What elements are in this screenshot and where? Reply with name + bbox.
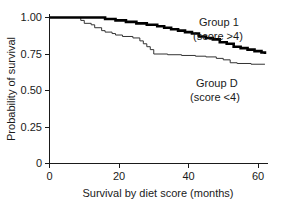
y-tick-label-1.00: 1.00 bbox=[21, 11, 42, 23]
kaplan-meier-plot: 1.00 0.75 0.50 0.25 0 0 20 40 60 Probabi… bbox=[0, 0, 281, 204]
y-tick-label-0: 0 bbox=[36, 157, 42, 169]
legend-group-d: Group D (score <4) bbox=[190, 77, 240, 103]
y-axis-title: Probability of survival bbox=[5, 37, 17, 141]
y-tick-label-0.50: 0.50 bbox=[21, 84, 42, 96]
legend-note-group-d: (score <4) bbox=[190, 91, 240, 103]
x-tick-label-0: 0 bbox=[46, 170, 52, 182]
x-tick-label-60: 60 bbox=[252, 170, 264, 182]
legend-note-group-1: (score >4) bbox=[193, 30, 243, 42]
y-tick-label-0.75: 0.75 bbox=[21, 48, 42, 60]
x-tick-labels: 0 20 40 60 bbox=[46, 170, 264, 182]
legend-label-group-d: Group D bbox=[196, 77, 238, 89]
y-tick-labels: 1.00 0.75 0.50 0.25 0 bbox=[21, 11, 42, 169]
legend-label-group-1: Group 1 bbox=[199, 16, 239, 28]
y-tick-label-0.25: 0.25 bbox=[21, 121, 42, 133]
x-axis-title: Survival by diet score (months) bbox=[83, 187, 234, 199]
x-tick-label-40: 40 bbox=[182, 170, 194, 182]
survival-chart-figure: 1.00 0.75 0.50 0.25 0 0 20 40 60 Probabi… bbox=[0, 0, 281, 204]
x-tick-label-20: 20 bbox=[113, 170, 125, 182]
legend-group-1: Group 1 (score >4) bbox=[193, 16, 243, 42]
